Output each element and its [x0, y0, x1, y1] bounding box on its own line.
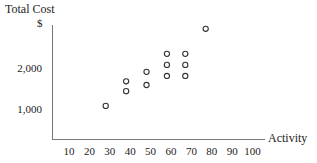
data-point [164, 62, 169, 67]
data-point [183, 51, 188, 56]
data-point [203, 26, 208, 31]
scatter-plot [0, 0, 317, 163]
data-point [124, 79, 129, 84]
data-points [103, 26, 208, 108]
data-point [144, 82, 149, 87]
data-point [164, 73, 169, 78]
data-point [183, 73, 188, 78]
data-point [183, 62, 188, 67]
data-point [164, 51, 169, 56]
data-point [124, 89, 129, 94]
data-point [144, 69, 149, 74]
data-point [103, 103, 108, 108]
